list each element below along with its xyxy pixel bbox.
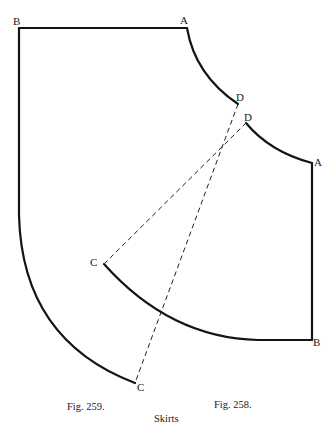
fig-258-label-a: A [314, 156, 322, 168]
fig-258-label-b: B [313, 336, 320, 348]
fig-259-hem-curve [19, 215, 135, 383]
fig-258-label-c: C [90, 256, 97, 268]
fig-259-dashed-line [135, 104, 238, 383]
fig-258-waist-curve [246, 123, 312, 163]
fig-259-caption: Fig. 259. [67, 401, 105, 412]
diagram-title: Skirts [154, 413, 179, 424]
fig-259-label-a: A [180, 14, 188, 26]
skirt-pattern-diagram: B A D C D A B C Fig. 259. Fig. 258. Skir… [0, 0, 335, 430]
fig-259-label-d: D [236, 91, 244, 103]
fig-258-pattern [104, 123, 312, 340]
fig-258-label-d: D [244, 111, 252, 123]
fig-258-dashed-line [104, 123, 246, 264]
fig-259-label-c: C [137, 381, 144, 393]
fig-259-waist-curve [187, 28, 238, 104]
fig-258-hem-curve [104, 264, 312, 340]
fig-259-pattern [19, 28, 238, 383]
fig-259-label-b: B [13, 15, 20, 27]
fig-258-caption: Fig. 258. [214, 399, 252, 410]
